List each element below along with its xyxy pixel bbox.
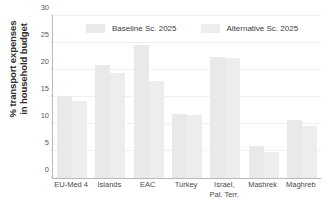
bar [110, 73, 125, 178]
x-axis-tick-label: Turkey [167, 180, 205, 199]
x-axis-tick-label: Maghreb [282, 180, 320, 199]
bar-chart-figure: % transport expenses in household budget… [0, 0, 326, 209]
legend-item[interactable]: Baseline Sc. 2025 [86, 24, 177, 33]
bar-groups [53, 16, 321, 178]
x-axis-tick-label: Islands [90, 180, 128, 199]
bar-group [206, 16, 244, 178]
bar-group [168, 16, 206, 178]
chart-legend: Baseline Sc. 2025Alternative Sc. 2025 [86, 24, 298, 33]
plot-area: 051015202530 [52, 16, 321, 179]
bar [225, 58, 240, 178]
bar-group [130, 16, 168, 178]
x-axis-tick-label: Israel, Pal. Terr. [205, 180, 243, 199]
bar-group [91, 16, 129, 178]
bar [249, 146, 264, 178]
y-axis-tick-label: 20 [41, 57, 49, 66]
bar-group [244, 16, 282, 178]
legend-label: Baseline Sc. 2025 [112, 24, 177, 33]
legend-item[interactable]: Alternative Sc. 2025 [201, 24, 299, 33]
x-axis-tick-labels: EU-Med 4IslandsEACTurkeyIsrael, Pal. Ter… [52, 180, 320, 199]
bar [210, 57, 225, 178]
y-axis-tick-label: 30 [41, 3, 49, 12]
legend-swatch [86, 24, 105, 33]
y-axis-title: % transport expenses in household budget [1, 0, 35, 139]
bar [264, 152, 279, 178]
bar [287, 120, 302, 178]
bar [57, 96, 72, 178]
y-axis-tick-label: 5 [45, 138, 49, 147]
bar-group [283, 16, 321, 178]
y-axis-tick-label: 10 [41, 111, 49, 120]
bar-group [53, 16, 91, 178]
bar [149, 81, 164, 178]
y-axis-tick-label: 0 [45, 165, 49, 174]
x-axis-tick-label: Mashrek [243, 180, 281, 199]
legend-label: Alternative Sc. 2025 [227, 24, 299, 33]
x-axis-tick-label: EAC [129, 180, 167, 199]
x-axis-tick-label: EU-Med 4 [52, 180, 90, 199]
bar [302, 126, 317, 178]
bar [187, 115, 202, 178]
y-axis-tick-label: 25 [41, 30, 49, 39]
bar [134, 45, 149, 178]
bar [72, 101, 87, 178]
bar [172, 114, 187, 178]
bar [95, 65, 110, 178]
y-axis-tick-label: 15 [41, 84, 49, 93]
legend-swatch [201, 24, 220, 33]
y-axis-title-text: % transport expenses in household budget [7, 21, 30, 118]
